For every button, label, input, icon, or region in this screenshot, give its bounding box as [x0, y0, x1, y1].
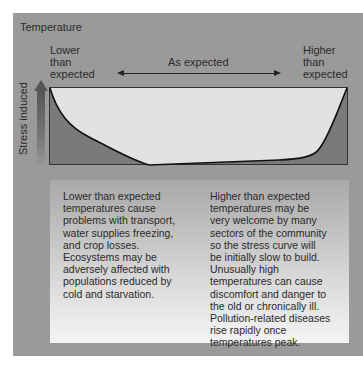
- stress-curve-graph: [49, 87, 348, 167]
- note-higher-temperatures: Higher than expected temperatures may be…: [210, 190, 350, 349]
- label-lower-than-expected: Lower than expected: [50, 44, 95, 80]
- y-axis-label: Stress induced: [17, 82, 29, 155]
- arrow-left-icon: [117, 70, 124, 76]
- notes-box: Lower than expected temperatures cause p…: [50, 180, 349, 343]
- diagram-title: Temperature: [20, 21, 82, 33]
- expected-range-line: [120, 73, 277, 74]
- label-higher-than-expected: Higher than expected: [303, 44, 348, 80]
- stress-axis-arrow: [37, 90, 45, 168]
- label-as-expected: As expected: [168, 56, 229, 68]
- note-lower-temperatures: Lower than expected temperatures cause p…: [63, 190, 203, 300]
- arrow-right-icon: [274, 70, 281, 76]
